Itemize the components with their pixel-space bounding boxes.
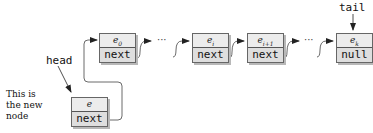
node-value: ei+1 bbox=[248, 34, 283, 47]
list-node-new: e next bbox=[71, 97, 108, 127]
to-ei-arrow bbox=[173, 41, 189, 57]
ellipsis-1: ··· bbox=[157, 34, 167, 45]
note-line-1: This is bbox=[6, 89, 42, 100]
list-node-e0: e0 next bbox=[99, 33, 136, 63]
head-pointer-arrow bbox=[58, 66, 71, 92]
node-next-field: next bbox=[100, 47, 135, 62]
ellipsis-2: ··· bbox=[304, 34, 314, 45]
list-node-ei-plus-1: ei+1 next bbox=[247, 33, 284, 63]
list-node-ek: ek null bbox=[336, 33, 373, 63]
note-line-2: the new bbox=[6, 100, 42, 111]
node-next-field: next bbox=[193, 47, 228, 62]
note-line-3: node bbox=[6, 111, 42, 122]
node-value: e0 bbox=[100, 34, 135, 47]
node-value: ei bbox=[193, 34, 228, 47]
to-ek-arrow bbox=[317, 41, 333, 57]
node-value: ek bbox=[337, 34, 372, 47]
tail-label: tail bbox=[339, 1, 366, 14]
new-node-note: This is the new node bbox=[6, 89, 42, 122]
ei-next-arrow bbox=[229, 41, 244, 58]
e0-next-arrow bbox=[137, 41, 151, 58]
node-next-field: next bbox=[72, 111, 107, 126]
ei1-next-arrow bbox=[284, 41, 299, 58]
node-next-field: next bbox=[248, 47, 283, 62]
node-null-field: null bbox=[337, 47, 372, 62]
head-label: head bbox=[46, 54, 73, 67]
list-node-ei: ei next bbox=[192, 33, 229, 63]
node-value: e bbox=[72, 98, 107, 111]
